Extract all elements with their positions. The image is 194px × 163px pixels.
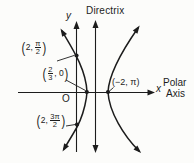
fraction-denominator: 2	[36, 48, 40, 55]
y-axis-arrow-icon	[74, 21, 80, 29]
point-r-value: 2,	[26, 43, 33, 52]
polar-axis-label-line2: Axis	[163, 89, 186, 100]
point-label-2-pi-over-2: ( 2, π 2 )	[21, 40, 47, 55]
directrix-label: Directrix	[86, 5, 124, 16]
point-label-2-thirds-0: ( 2 3 , 0 )	[42, 66, 68, 81]
close-bracket: )	[62, 114, 66, 128]
point-angle-fraction: π 2	[35, 40, 41, 55]
point-r-fraction: 2 3	[48, 66, 53, 81]
point-r-value: 2,	[41, 116, 48, 125]
pointer-far-vertex	[110, 88, 114, 92]
polar-axis-label-line1: Polar	[163, 77, 186, 88]
left-branch-curve	[62, 31, 87, 149]
left-branch-bottom-arrow-icon	[63, 143, 70, 151]
left-branch-top-arrow-icon	[61, 28, 68, 36]
point-angle-value: , 0	[54, 69, 63, 78]
point-dot-neg2-pi	[106, 90, 110, 94]
polar-conic-figure: Directrix y x Polar Axis O ( 2, π 2 ) ( …	[0, 0, 194, 163]
point-label-neg2-pi: (−2, π)	[112, 78, 139, 87]
open-bracket: (	[42, 67, 46, 81]
fraction-denominator: 3	[48, 74, 52, 81]
open-bracket: (	[36, 114, 40, 128]
right-branch-curve	[108, 28, 139, 151]
point-angle-fraction: 3π 2	[50, 113, 60, 128]
pointer-top-point	[57, 56, 74, 62]
point-label-2-3pi-over-2: ( 2, 3π 2 )	[36, 113, 66, 128]
right-branch-top-arrow-icon	[133, 26, 140, 34]
pointer-near-vertex	[66, 80, 86, 91]
directrix-bottom-arrow-icon	[93, 145, 99, 153]
open-bracket: (	[21, 41, 25, 55]
origin-label: O	[62, 93, 70, 104]
x-axis-arrow-icon	[148, 90, 156, 96]
directrix-top-arrow-icon	[93, 20, 99, 28]
x-axis-label: x	[156, 83, 161, 94]
y-axis-label: y	[66, 10, 71, 21]
polar-axis-label: Polar Axis	[163, 78, 186, 99]
point-dot-2-pi-over-2	[74, 53, 78, 57]
pointer-bottom-point	[66, 125, 76, 127]
fraction-denominator: 2	[53, 121, 57, 128]
point-dot-2-thirds-0	[85, 90, 89, 94]
close-bracket: )	[64, 67, 68, 81]
close-bracket: )	[42, 41, 46, 55]
point-dot-2-3pi-over-2	[75, 122, 79, 126]
